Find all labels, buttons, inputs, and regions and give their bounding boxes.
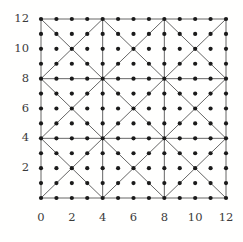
y-tick-label: 6 [6,103,29,115]
lattice-point [85,181,89,185]
lattice-point [208,151,212,155]
lattice-point [178,166,182,170]
lattice-point [70,106,74,110]
lattice-point [193,136,197,140]
lattice-point [224,47,228,51]
lattice-point [116,106,120,110]
lattice-point [147,136,151,140]
lattice-point [39,166,43,170]
lattice-point [208,196,212,200]
lattice-point [101,91,105,95]
lattice-point [178,181,182,185]
lattice-point [39,62,43,66]
lattice-point [224,166,228,170]
lattice-point [178,32,182,36]
x-tick-label: 10 [188,212,203,224]
lattice-point [70,91,74,95]
lattice-point [178,77,182,81]
lattice-point [116,62,120,66]
lattice-point [178,91,182,95]
lattice-point [70,196,74,200]
lattice-point [224,196,228,200]
lattice-point [116,32,120,36]
x-tick-label: 6 [130,212,137,224]
lattice-point [39,47,43,51]
lattice-point [131,136,135,140]
lattice-point [193,151,197,155]
lattice-point [85,17,89,21]
lattice-point [224,151,228,155]
lattice-point [101,181,105,185]
lattice-point [162,196,166,200]
lattice-point [39,181,43,185]
lattice-point [54,151,58,155]
lattice-point [101,62,105,66]
y-tick-label: 2 [6,162,29,174]
lattice-point [193,121,197,125]
lattice-point [101,136,105,140]
lattice-point [147,32,151,36]
lattice-point [193,77,197,81]
lattice-point [131,106,135,110]
lattice-point [85,196,89,200]
lattice-point [85,136,89,140]
lattice-point [85,121,89,125]
lattice-point [147,17,151,21]
lattice-point [39,32,43,36]
lattice-point [224,91,228,95]
lattice-point [208,121,212,125]
lattice-point [131,151,135,155]
y-tick-label: 10 [6,43,29,55]
lattice-point [54,77,58,81]
lattice-point [101,32,105,36]
lattice-point [54,32,58,36]
lattice-triangulation-plot [0,0,243,242]
lattice-point [208,32,212,36]
lattice-point [224,17,228,21]
lattice-point [178,62,182,66]
lattice-point [162,151,166,155]
lattice-point [162,106,166,110]
x-tick-label: 4 [99,212,106,224]
lattice-point [178,151,182,155]
lattice-point [162,17,166,21]
lattice-point [224,181,228,185]
lattice-point [147,121,151,125]
lattice-point [116,136,120,140]
lattice-point [208,91,212,95]
lattice-point [85,166,89,170]
lattice-point [101,196,105,200]
lattice-point [116,47,120,51]
lattice-point [162,181,166,185]
lattice-point [131,91,135,95]
lattice-point [39,196,43,200]
lattice-point [54,136,58,140]
lattice-point [224,136,228,140]
lattice-point [178,136,182,140]
lattice-point [224,121,228,125]
lattice-point [131,121,135,125]
lattice-point [54,196,58,200]
lattice-point [162,136,166,140]
lattice-point [70,32,74,36]
lattice-point [116,77,120,81]
lattice-point [147,106,151,110]
lattice-point [178,47,182,51]
lattice-point [162,62,166,66]
lattice-point [147,91,151,95]
lattice-point [208,136,212,140]
lattice-point [70,166,74,170]
lattice-point [70,62,74,66]
lattice-point [54,181,58,185]
lattice-point [147,166,151,170]
lattice-point [224,62,228,66]
lattice-point [162,91,166,95]
y-tick-label: 12 [6,13,29,25]
lattice-point [178,17,182,21]
lattice-point [193,91,197,95]
y-tick-label: 4 [6,133,29,145]
lattice-point [85,91,89,95]
lattice-point [208,62,212,66]
lattice-point [116,17,120,21]
lattice-point [101,77,105,81]
